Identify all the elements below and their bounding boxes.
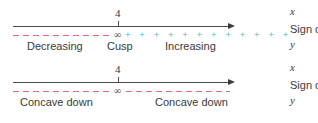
- x-axis-line: [13, 26, 231, 27]
- negative-sign-dashes: [13, 35, 113, 36]
- tick-label-4: 4: [115, 64, 121, 75]
- label-decreasing: Decreasing: [27, 40, 83, 52]
- axis-label-x: x: [290, 61, 295, 73]
- function-label-y: y: [290, 94, 295, 106]
- infinity-marker: ∞: [114, 30, 121, 40]
- axis-label-x: x: [290, 5, 295, 17]
- sign-label-dy-dx: Sign of dy/dx: [290, 23, 318, 35]
- sign-label-d2y-dx2: Sign of d2y/dx2: [290, 79, 318, 91]
- label-concave-down-right: Concave down: [155, 96, 228, 108]
- tick-label-4: 4: [115, 8, 121, 19]
- negative-sign-dashes-left: [13, 91, 113, 92]
- sign-label-prefix: Sign of: [290, 79, 318, 91]
- sign-label-prefix: Sign of: [290, 23, 318, 35]
- arrow-right-icon: [228, 79, 235, 85]
- label-concave-down-left: Concave down: [20, 96, 93, 108]
- positive-sign-marks: + + + + + + + + + + + +: [125, 30, 291, 40]
- function-label-y: y: [290, 38, 295, 50]
- x-axis-line: [13, 82, 231, 83]
- infinity-marker: ∞: [114, 86, 121, 96]
- label-cusp: Cusp: [107, 40, 133, 52]
- label-increasing: Increasing: [165, 40, 216, 52]
- negative-sign-dashes-right: [126, 91, 230, 92]
